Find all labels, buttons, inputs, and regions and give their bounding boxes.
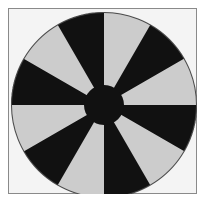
radial-spoke-wheel [0, 0, 208, 213]
figure-root [0, 0, 208, 213]
